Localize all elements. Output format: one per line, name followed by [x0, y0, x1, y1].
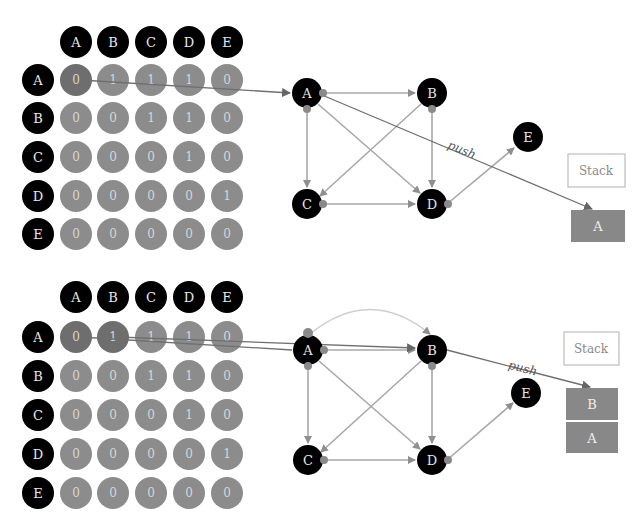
matrix-row-header: C	[22, 399, 54, 431]
matrix-column-header: A	[60, 26, 92, 58]
row-header-label: C	[33, 408, 43, 423]
matrix-cell: 0	[173, 438, 205, 470]
matrix-cell: 0	[60, 218, 92, 250]
stack-item-label: A	[586, 431, 597, 446]
row-header-label: D	[33, 447, 43, 462]
node-label: D	[427, 197, 437, 212]
cell-value: 0	[72, 408, 80, 422]
matrix-cell: 1	[173, 102, 205, 134]
cell-value: 0	[72, 73, 80, 87]
cell-value: 1	[185, 369, 193, 383]
graph-node-d: D	[417, 189, 447, 219]
row-header-label: B	[33, 111, 43, 126]
cell-value: 1	[109, 330, 117, 344]
cell-value: 1	[185, 150, 193, 164]
graph-node-d: D	[417, 445, 447, 475]
matrix-row-header: E	[22, 218, 54, 250]
matrix-row-header: A	[22, 64, 54, 96]
adjacency-matrix: A B C D E A B C D E 0 1 1 1 0 0 0 1 1 0 …	[22, 26, 243, 250]
cell-value: 1	[147, 369, 155, 383]
cell-value: 0	[72, 189, 80, 203]
cell-value: 1	[185, 111, 193, 125]
node-label: A	[301, 86, 312, 101]
graph-node-e: E	[511, 378, 541, 408]
matrix-column-header: E	[211, 281, 243, 313]
matrix-cell: 0	[97, 399, 129, 431]
cell-value: 0	[223, 330, 231, 344]
push-label: push	[446, 138, 478, 162]
cell-value: 0	[223, 111, 231, 125]
node-label: E	[521, 386, 531, 401]
cell-value: 0	[109, 447, 117, 461]
graph-node-a: A	[292, 78, 322, 108]
matrix-cell: 0	[135, 477, 167, 509]
cell-value: 0	[72, 330, 80, 344]
edge-b-c	[321, 361, 421, 452]
cell-value: 0	[185, 189, 193, 203]
cell-value: 0	[147, 408, 155, 422]
node-label: E	[523, 130, 533, 145]
node-label: C	[303, 453, 313, 468]
stack-title: Stack	[579, 164, 614, 178]
matrix-row-header: D	[22, 438, 54, 470]
column-header-label: C	[146, 290, 156, 305]
matrix-row-header: A	[22, 321, 54, 353]
row-header-label: E	[33, 227, 43, 242]
graph-node-e: E	[513, 122, 543, 152]
cell-value: 0	[185, 447, 193, 461]
matrix-cell: 1	[135, 360, 167, 392]
matrix-column-header: D	[173, 281, 205, 313]
graph-node-b: B	[417, 78, 447, 108]
stack: Stack A	[568, 154, 625, 242]
matrix-cell: 0	[211, 102, 243, 134]
cell-value: 0	[72, 150, 80, 164]
matrix-column-header: E	[211, 26, 243, 58]
edge-d-e	[447, 403, 513, 460]
adjacency-matrix: A B C D E A B C D E 0 1 1 1 0 0 0 1 1 0 …	[22, 281, 243, 509]
matrix-row-header: D	[22, 180, 54, 212]
matrix-cell: 1	[135, 64, 167, 96]
matrix-cell: 0	[211, 64, 243, 96]
graph-node-c: C	[293, 445, 323, 475]
graph-node-c: C	[292, 189, 322, 219]
graph-node-b: B	[417, 335, 447, 365]
cell-value: 0	[109, 150, 117, 164]
cell-value: 0	[147, 447, 155, 461]
matrix-cell: 0	[97, 141, 129, 173]
matrix-cell: 0	[60, 360, 92, 392]
cell-value: 0	[147, 189, 155, 203]
cell-value: 0	[109, 486, 117, 500]
column-header-label: C	[146, 35, 156, 50]
matrix-cell: 0	[211, 399, 243, 431]
matrix-cell: 0	[211, 360, 243, 392]
row-header-label: E	[33, 486, 43, 501]
cell-value: 0	[109, 111, 117, 125]
cell-value: 1	[109, 73, 117, 87]
cell-value: 0	[147, 150, 155, 164]
panel-step-2: A B C D E A B C D E 0 1 1 1 0 0 0 1 1 0 …	[22, 281, 619, 509]
cell-value: 0	[147, 486, 155, 500]
graph-edges	[307, 93, 514, 204]
matrix-cell: 0	[97, 438, 129, 470]
row-header-label: C	[33, 150, 43, 165]
edge-a-d	[319, 361, 420, 449]
matrix-cell: 1	[173, 360, 205, 392]
cell-value: 1	[185, 408, 193, 422]
matrix-column-header: B	[97, 281, 129, 313]
column-header-label: A	[70, 35, 81, 50]
edge-a-d	[318, 104, 420, 193]
column-header-label: E	[222, 35, 232, 50]
matrix-cell: 1	[135, 321, 167, 353]
matrix-cell: 1	[211, 438, 243, 470]
matrix-cell: 1	[173, 321, 205, 353]
edge-d-e	[447, 148, 514, 204]
row-header-label: A	[32, 73, 43, 88]
matrix-cell: 0	[135, 141, 167, 173]
matrix-cell: 0	[135, 180, 167, 212]
cell-value: 0	[72, 227, 80, 241]
matrix-row-header: C	[22, 141, 54, 173]
node-label: A	[302, 343, 313, 358]
matrix-cell: 0	[211, 141, 243, 173]
node-label: B	[427, 86, 437, 101]
cell-value: 0	[185, 486, 193, 500]
